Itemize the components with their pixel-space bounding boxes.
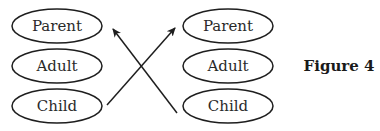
arrow-right-child-to-left-parent [113,29,177,113]
left-child-label: Child [37,97,78,115]
right-parent-node: Parent [183,9,273,43]
right-parent-label: Parent [203,17,253,35]
left-adult-node: Adult [12,49,102,83]
right-column: Parent Adult Child [183,9,273,123]
left-adult-label: Adult [36,57,78,75]
transaction-diagram: Parent Adult Child Parent Adult Child Fi… [0,0,380,131]
figure-label: Figure 4 [304,57,375,75]
left-parent-label: Parent [32,17,82,35]
left-child-node: Child [12,89,102,123]
right-child-node: Child [183,89,273,123]
right-adult-label: Adult [207,57,249,75]
left-column: Parent Adult Child [12,9,102,123]
right-adult-node: Adult [183,49,273,83]
left-parent-node: Parent [12,9,102,43]
right-child-label: Child [208,97,249,115]
